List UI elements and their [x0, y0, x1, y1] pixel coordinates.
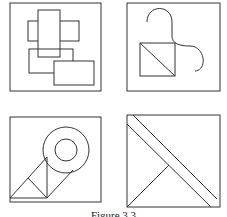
panel-top-left [10, 3, 101, 91]
front-rectangle [54, 61, 94, 85]
figure-canvas [0, 0, 227, 217]
panel-top-right [127, 3, 220, 91]
outer-circle [43, 127, 89, 173]
figure-caption: Figure 3.3 [0, 209, 227, 217]
vertical-rectangle [38, 10, 60, 57]
panel-bottom-left [10, 117, 101, 202]
inner-circle [55, 139, 77, 161]
inner-slant [28, 178, 47, 198]
panel-bottom-right [127, 115, 220, 207]
triangle-left-edge [127, 165, 169, 207]
right-slant [47, 170, 73, 198]
panel-frame [127, 3, 220, 91]
band-upper-line [133, 115, 217, 199]
diagonal-line [140, 43, 175, 76]
